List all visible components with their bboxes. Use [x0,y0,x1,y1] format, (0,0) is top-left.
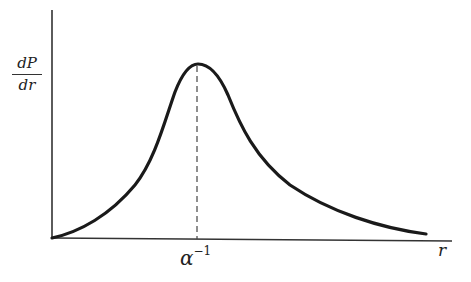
y-axis-label: dP dr [12,56,42,93]
x-axis-label: r [438,240,446,260]
x-axis [52,238,452,241]
x-tick-base: α [180,246,194,270]
chart-plot-area [0,0,471,282]
x-tick-exponent: −1 [194,244,212,258]
y-label-denominator: dr [12,75,42,93]
x-tick-alpha-inverse: α−1 [180,244,211,270]
y-label-numerator: dP [12,56,42,75]
density-curve [52,64,426,238]
